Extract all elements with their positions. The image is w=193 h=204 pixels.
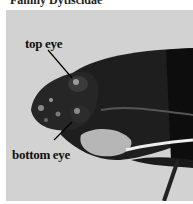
bottom-eye-label: bottom eye (12, 147, 70, 163)
figure-caption: Family Dytiscidae (10, 0, 102, 8)
beetle-photo: top eye bottom eye (6, 10, 193, 201)
top-eye-label: top eye (25, 36, 62, 52)
